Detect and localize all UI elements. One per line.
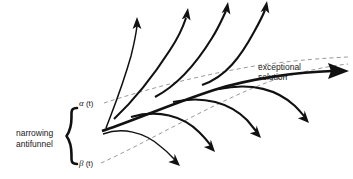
antifunnel-brace xyxy=(67,108,78,164)
exceptional-solution-label-line-2: solution xyxy=(258,72,288,82)
beta-boundary-curve xyxy=(101,64,348,163)
antifunnel-label-line-2: antifunnel xyxy=(16,139,53,149)
down-arrowhead-2 xyxy=(204,139,215,152)
antifunnel-label-line-1: narrowing xyxy=(16,128,54,138)
escaping-down-curve-2 xyxy=(131,114,211,146)
escaping-solutions-upward xyxy=(106,1,269,128)
exceptional-solution-label-line-1: exceptional xyxy=(258,62,301,72)
beta-arg: (t) xyxy=(86,159,94,168)
exceptional-solution-arrowhead xyxy=(328,63,349,79)
alpha-boundary-label: α(t) xyxy=(79,98,94,108)
escaping-down-curve-1 xyxy=(103,131,175,160)
alpha-symbol: α xyxy=(79,98,84,108)
exceptional-solution-trajectory xyxy=(102,63,349,131)
diagram-labels: α(t) β(t) narrowing antifunnel exception… xyxy=(16,62,301,168)
exceptional-solution-curve xyxy=(102,71,332,131)
beta-boundary-label: β(t) xyxy=(78,158,94,168)
beta-symbol: β xyxy=(78,158,84,168)
brace-shape xyxy=(67,108,78,164)
escaping-up-curve-3 xyxy=(155,11,226,97)
alpha-boundary-curve xyxy=(104,57,348,103)
escaping-down-curve-3 xyxy=(173,99,257,132)
down-arrowhead-3 xyxy=(250,126,261,139)
antifunnel-diagram: α(t) β(t) narrowing antifunnel exception… xyxy=(0,0,353,179)
escaping-down-curve-4 xyxy=(219,86,305,117)
alpha-arg: (t) xyxy=(86,99,94,108)
